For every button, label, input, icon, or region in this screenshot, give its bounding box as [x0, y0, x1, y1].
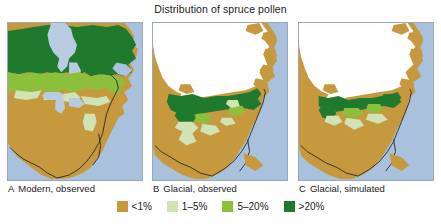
legend-label-lt1: <1%	[132, 201, 152, 212]
panel-label-a: Modern, observed	[18, 183, 95, 194]
ice-sheet-b	[153, 23, 269, 98]
map-c-svg	[299, 23, 433, 180]
legend-swatch-lt1	[117, 201, 128, 212]
panel-caption-c: CGlacial, simulated	[299, 183, 385, 194]
legend-item-gt20: >20%	[284, 201, 325, 212]
legend-label-1-5: 1–5%	[182, 201, 208, 212]
legend-item-5-20: 5–20%	[222, 201, 268, 212]
legend-swatch-1-5	[167, 201, 178, 212]
chart-title: Distribution of spruce pollen	[0, 3, 441, 15]
legend-item-lt1: <1%	[117, 201, 152, 212]
legend-swatch-5-20	[222, 201, 233, 212]
panel-letter-a: A	[8, 183, 14, 194]
figure-root: Distribution of spruce pollen	[0, 0, 441, 224]
panel-label-b: Glacial, observed	[163, 183, 236, 194]
legend-label-gt20: >20%	[299, 201, 325, 212]
panel-caption-a: AModern, observed	[8, 183, 95, 194]
legend-swatch-gt20	[284, 201, 295, 212]
panel-caption-b: BGlacial, observed	[153, 183, 237, 194]
panel-label-c: Glacial, simulated	[310, 183, 385, 194]
ice-sheet-c	[299, 23, 415, 98]
legend-label-5-20: 5–20%	[237, 201, 268, 212]
panel-letter-c: C	[299, 183, 306, 194]
map-panel-c	[298, 22, 434, 181]
map-a-svg	[8, 23, 142, 180]
panel-letter-b: B	[153, 183, 159, 194]
legend-item-1-5: 1–5%	[167, 201, 208, 212]
legend: <1% 1–5% 5–20% >20%	[0, 201, 441, 212]
map-panel-b	[152, 22, 288, 181]
map-b-svg	[153, 23, 287, 180]
map-panel-a	[7, 22, 143, 181]
